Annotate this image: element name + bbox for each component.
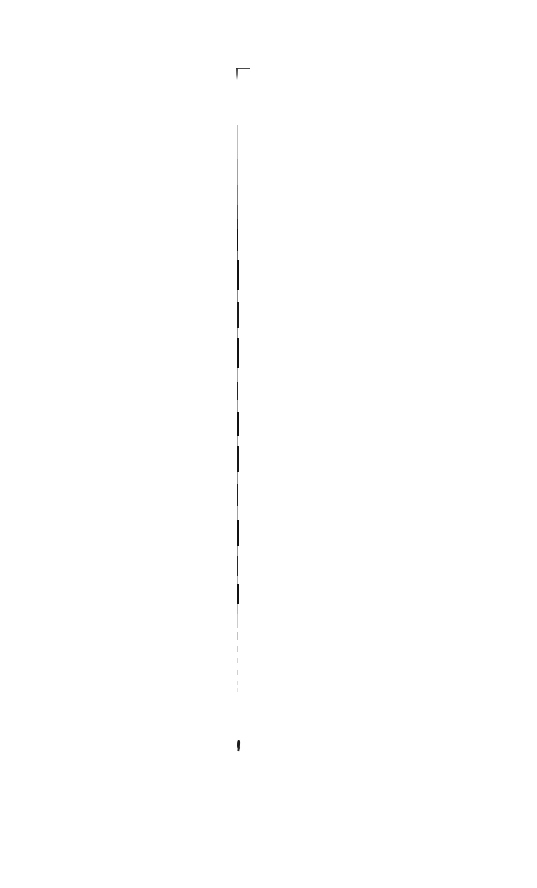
scan-line-segment [237,681,238,685]
scan-line-segment [237,576,238,584]
scan-line-segment [237,382,239,400]
scan-line-segment [237,229,239,251]
scan-line-segment [237,584,240,604]
scan-line-segment [237,159,238,185]
scan-line-segment [237,670,238,675]
scan-line-segment [237,472,238,484]
scan-line-segment [237,328,238,338]
scan-line-segment [237,646,238,652]
scan-line-segment [237,338,239,368]
scan-line-segment [237,368,238,382]
scan-line-segment [237,436,238,446]
scan-line-segment [237,412,239,436]
corner-bracket-mark [236,68,250,84]
scan-line-segment [237,484,239,506]
scan-line-segment [237,506,238,520]
scan-line-segment [237,632,238,640]
scan-line-segment [237,205,238,219]
scan-line-segment [237,290,238,302]
scan-line-segment [237,219,238,229]
corner-bracket-horizontal-stroke [236,68,250,69]
scan-line-segment [237,658,238,663]
scan-line-segment [237,125,238,159]
scan-line-segment [237,546,238,556]
scanned-page [0,0,537,888]
scan-line-segment [237,251,238,260]
corner-bracket-vertical-stroke [236,68,238,80]
scan-line-segment [237,556,239,576]
scan-line-segment [237,614,238,628]
scan-line-segment [237,260,239,290]
scan-line-segment [237,520,239,546]
scan-line-segment [237,185,238,205]
scan-line-segment [237,446,239,472]
bottom-tick-mark [237,740,241,749]
scan-line-segment [237,302,239,328]
vertical-scan-edge-line [0,0,537,888]
scan-line-segment [237,400,238,412]
scan-line-segment [237,688,238,692]
scan-line-segment [237,604,238,614]
